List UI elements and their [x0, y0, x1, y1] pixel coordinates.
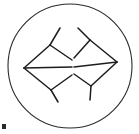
left-arrow-upper-head-line [24, 45, 50, 68]
right-lower-fin-line [90, 86, 91, 100]
ink-mark [2, 124, 6, 129]
left-arrow-lower-head-line [24, 68, 51, 90]
line-drawing [0, 0, 139, 134]
right-upper-inner-fin-line [74, 40, 90, 58]
right-arrow-lower-head-line [91, 62, 117, 86]
left-arrow-group [24, 28, 72, 102]
left-lower-fin-line [51, 90, 58, 102]
right-arrow-group [74, 28, 117, 100]
left-upper-inner-fin-line [50, 45, 72, 60]
left-arrow-shaft-line [24, 67, 72, 68]
right-lower-inner-fin-line [74, 74, 91, 86]
left-upper-fin-line [50, 28, 60, 45]
figure-canvas [0, 0, 139, 134]
left-lower-inner-fin-line [51, 75, 72, 90]
right-arrow-shaft-line [74, 62, 117, 67]
right-upper-fin-line [78, 28, 90, 40]
right-arrow-upper-head-line [90, 40, 117, 62]
